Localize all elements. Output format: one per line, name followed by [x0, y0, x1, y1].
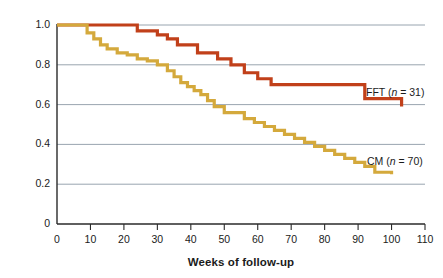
- y-tick-label-0-8: 0.8: [16, 58, 50, 70]
- series-label-cm-suffix: = 70): [396, 155, 423, 167]
- x-tick-label-30: 30: [142, 233, 172, 245]
- y-tick-label-0-6: 0.6: [16, 98, 50, 110]
- x-tick-label-90: 90: [343, 233, 373, 245]
- x-tick-label-0: 0: [42, 233, 72, 245]
- y-tick-label-0-4: 0.4: [16, 137, 50, 149]
- x-tick-label-60: 60: [243, 233, 273, 245]
- x-tick-label-40: 40: [176, 233, 206, 245]
- x-axis-label: Weeks of follow-up: [57, 256, 425, 268]
- x-tick-label-80: 80: [310, 233, 340, 245]
- y-tick-label-0-2: 0.2: [16, 177, 50, 189]
- x-tick-label-10: 10: [75, 233, 105, 245]
- series-label-fft-prefix: FFT (: [366, 86, 391, 98]
- x-tick-label-70: 70: [276, 233, 306, 245]
- x-tick-label-110: 110: [410, 233, 440, 245]
- series-label-cm-prefix: CM (: [367, 155, 390, 167]
- x-tick-label-20: 20: [109, 233, 139, 245]
- series-label-cm: CM (n = 70): [367, 155, 423, 167]
- series-label-fft-suffix: = 31): [397, 86, 424, 98]
- series-label-fft: FFT (n = 31): [366, 86, 424, 98]
- y-tick-label-0: 0: [16, 217, 50, 229]
- x-tick-label-50: 50: [209, 233, 239, 245]
- survival-curve-figure: Cumulative survival rate Weeks of follow…: [0, 0, 443, 278]
- x-tick-label-100: 100: [377, 233, 407, 245]
- y-tick-label-1: 1.0: [16, 18, 50, 30]
